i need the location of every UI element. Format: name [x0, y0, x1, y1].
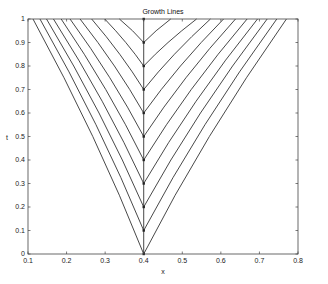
chart-title: Growth Lines [142, 8, 184, 15]
y-axis-label: t [6, 134, 8, 141]
x-tick-label: 0.1 [23, 257, 33, 264]
branch-left-line-5 [70, 19, 144, 137]
y-tick-label: 0.4 [15, 156, 25, 163]
y-tick-label: 0.9 [15, 39, 25, 46]
branch-point-marker [143, 41, 145, 43]
x-tick-label: 0.7 [255, 257, 265, 264]
plot-frame [28, 19, 298, 254]
x-tick-label: 0.3 [100, 257, 110, 264]
x-tick-label: 0.2 [62, 257, 72, 264]
branch-right-line-9 [144, 19, 171, 43]
y-tick-label: 0.1 [15, 227, 25, 234]
y-tick-label: 0.7 [15, 86, 25, 93]
y-tick-label: 0 [21, 250, 25, 257]
branch-point-marker [143, 159, 145, 161]
x-tick-label: 0.6 [216, 257, 226, 264]
y-tick-label: 0.3 [15, 180, 25, 187]
x-axis-label: x [161, 268, 165, 275]
y-tick-label: 0.5 [15, 133, 25, 140]
branch-right-line-0 [144, 19, 287, 254]
branch-left-line-0 [33, 19, 144, 254]
branch-point-marker [143, 112, 145, 114]
y-tick-label: 1 [21, 15, 25, 22]
branch-point-marker [143, 135, 145, 137]
branch-right-line-1 [144, 19, 277, 231]
y-tick-label: 0.2 [15, 203, 25, 210]
growth-lines-series [33, 19, 286, 254]
branch-right-line-7 [144, 19, 211, 90]
branch-right-line-6 [144, 19, 224, 113]
branch-point-marker [143, 88, 145, 90]
growth-lines-chart: Growth Lines 0.10.20.30.40.50.60.70.8 00… [0, 0, 328, 284]
x-tick-label: 0.4 [139, 257, 149, 264]
branch-point-marker [143, 206, 145, 208]
x-tick-label: 0.8 [293, 257, 303, 264]
branch-right-line-4 [144, 19, 247, 160]
branch-point-marker [143, 182, 145, 184]
branch-right-line-5 [144, 19, 236, 137]
x-tick-label: 0.5 [177, 257, 187, 264]
y-tick-label: 0.8 [15, 62, 25, 69]
branch-point-marker [143, 229, 145, 231]
branch-left-line-6 [80, 19, 144, 113]
y-tick-label: 0.6 [15, 109, 25, 116]
branch-point-marker [143, 65, 145, 67]
